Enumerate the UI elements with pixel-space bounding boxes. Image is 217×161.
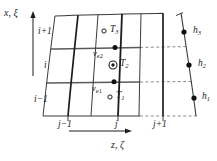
node-label-T3: T3	[110, 25, 119, 35]
grid-diagram-figure: x, ξ z, ζ i+1 i i−1 j−1 j j+1 T3 νe2 T2 …	[0, 0, 217, 161]
horizontal-axis-arrow	[69, 128, 132, 133]
node-label-T1-sub: 1	[121, 94, 124, 101]
node-label-T1: T1	[116, 91, 125, 101]
node-marker-T1	[108, 95, 112, 99]
row-index-label-i: i	[44, 61, 47, 71]
node-marker-nu-e2	[113, 45, 118, 50]
outer-curve-stub	[176, 13, 183, 16]
horizontal-axis-label: z, ζ	[111, 140, 124, 150]
row-index-label-i-minus-1: i−1	[34, 95, 48, 105]
row-index-label-i-plus-1: i+1	[38, 27, 52, 37]
col-index-label-j: j	[115, 120, 118, 130]
horizontal-axis-label-zeta: ζ	[120, 139, 124, 150]
vertical-axis-arrow	[30, 11, 35, 76]
node-label-h2-sub: 2	[203, 62, 206, 69]
node-label-T2: T2	[120, 59, 129, 69]
node-label-h1: h1	[202, 92, 210, 102]
node-label-nu-e2-sub: e2	[97, 52, 103, 59]
node-label-h3-sub: 3	[198, 29, 201, 36]
node-label-nu-e1: νe1	[92, 84, 102, 94]
dashed-connector-lines	[140, 47, 197, 116]
vertical-axis-label-xi: ξ	[13, 7, 17, 18]
col-index-label-j-plus-1: j+1	[153, 120, 167, 130]
node-label-T3-sub: 3	[115, 28, 118, 35]
diagram-canvas	[0, 0, 217, 161]
node-label-h3: h3	[193, 26, 201, 36]
node-label-h2: h2	[198, 59, 206, 69]
node-marker-nu-e1	[112, 79, 117, 84]
col-index-label-j-minus-1: j−1	[58, 120, 72, 130]
node-marker-h1	[191, 95, 196, 100]
node-label-nu-e2: νe2	[93, 49, 103, 59]
node-label-nu-e1-sub: e1	[96, 87, 102, 94]
node-marker-T3	[102, 29, 106, 33]
node-marker-h3	[181, 29, 186, 34]
node-marker-T2	[109, 61, 117, 69]
node-label-h1-sub: 1	[207, 95, 210, 102]
horizontal-axis-label-sep: ,	[115, 139, 118, 150]
node-marker-h2	[186, 62, 191, 67]
vertical-axis-label-sep: ,	[8, 7, 11, 18]
node-label-T2-sub: 2	[125, 62, 128, 69]
vertical-axis-label: x, ξ	[4, 8, 18, 18]
